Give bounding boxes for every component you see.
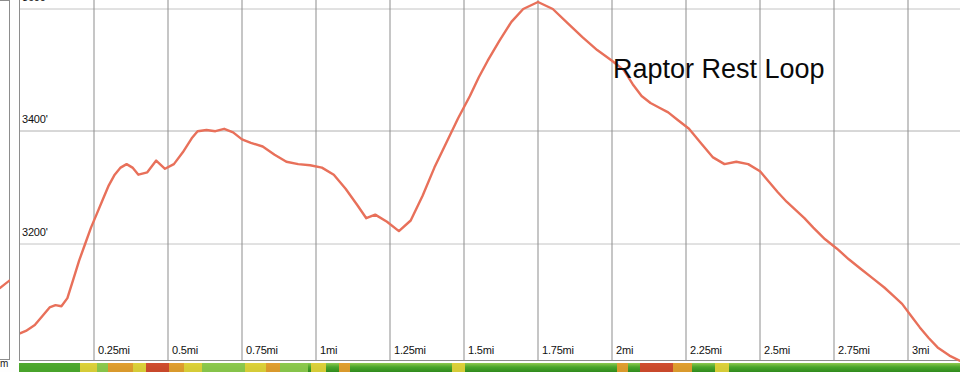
x-axis-label-1-25mi: 1.25mi <box>393 344 427 356</box>
x-axis-label-2-5mi: 2.5mi <box>763 344 791 356</box>
x-axis-label-2-75mi: 2.75mi <box>837 344 871 356</box>
grade-segment <box>280 363 308 372</box>
grade-segment <box>266 363 280 372</box>
y-axis-label-3400: 3400' <box>22 113 50 125</box>
grade-segment <box>311 363 326 372</box>
grade-segment <box>146 363 169 372</box>
elevation-profile-screenshot: m <box>0 0 960 375</box>
y-axis-label-3200: 3200' <box>22 226 50 238</box>
grade-segment <box>19 363 80 372</box>
y-axis-label-3600: 3600' <box>22 0 50 3</box>
adjacent-chart-label: m <box>0 358 8 369</box>
grade-segment <box>715 363 729 372</box>
x-axis-label-0-25mi: 0.25mi <box>97 344 131 356</box>
grade-segment <box>202 363 244 372</box>
x-axis-label-1mi: 1mi <box>319 344 338 356</box>
x-axis-label-3mi: 3mi <box>911 344 930 356</box>
grade-segment <box>80 363 97 372</box>
grade-segment <box>640 363 673 372</box>
x-axis-label-0-5mi: 0.5mi <box>171 344 199 356</box>
grade-segment <box>133 363 146 372</box>
adjacent-chart-line <box>0 0 10 360</box>
grade-segment <box>97 363 108 372</box>
grade-difficulty-strip <box>19 363 960 372</box>
horizontal-gridlines <box>20 9 960 244</box>
adjacent-chart-sliver: m <box>0 0 10 375</box>
grade-segment <box>673 363 692 372</box>
chart-title: Raptor Rest Loop <box>613 54 825 85</box>
grade-segment <box>452 363 465 372</box>
grade-segment <box>339 363 350 372</box>
grade-segment <box>617 363 628 372</box>
x-axis-label-1-75mi: 1.75mi <box>541 344 575 356</box>
x-axis-label-2-25mi: 2.25mi <box>689 344 723 356</box>
grade-segment <box>184 363 203 372</box>
grade-segment <box>245 363 266 372</box>
x-axis-label-2mi: 2mi <box>615 344 634 356</box>
x-axis-label-0-75mi: 0.75mi <box>245 344 279 356</box>
grade-segment <box>169 363 184 372</box>
grade-segment <box>108 363 132 372</box>
x-axis-label-1-5mi: 1.5mi <box>467 344 495 356</box>
